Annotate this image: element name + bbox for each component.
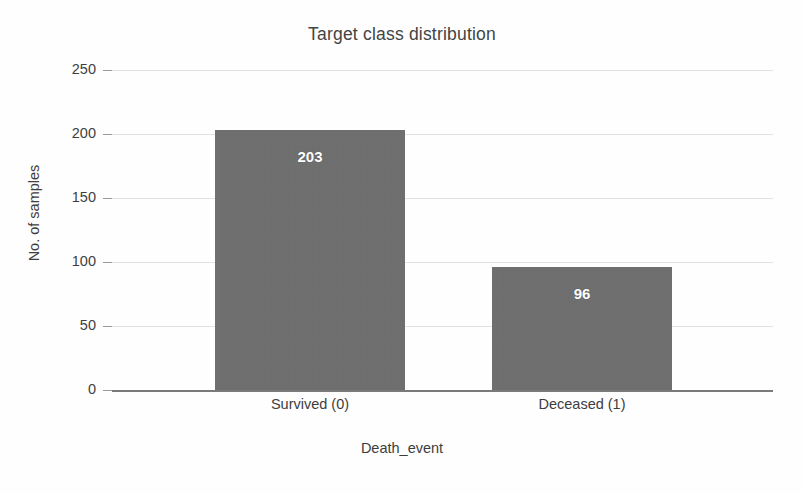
y-tick-label: 50 [34,318,96,333]
gridline [112,262,773,263]
y-tick-mark [103,134,112,135]
gridline [112,198,773,199]
bar-value-label: 203 [215,148,405,165]
gridline [112,134,773,135]
y-tick-mark [103,198,112,199]
bar: 96 [492,267,672,390]
gridline [112,70,773,71]
bar: 203 [215,130,405,390]
y-axis-title: No. of samples [26,133,42,293]
gridline [112,326,773,327]
bar-value-label: 96 [492,285,672,302]
y-tick-mark [103,326,112,327]
y-tick-label: 250 [34,62,96,77]
y-tick-mark [103,390,112,391]
x-axis-title: Death_event [0,440,804,456]
y-tick-label: 0 [34,382,96,397]
y-tick-mark [103,262,112,263]
y-tick-label: 150 [34,190,96,205]
y-tick-mark [103,70,112,71]
axis-baseline [112,390,773,392]
bar-chart-figure: Target class distribution No. of samples… [0,0,804,493]
y-tick-label: 200 [34,126,96,141]
y-tick-label: 100 [34,254,96,269]
chart-title: Target class distribution [0,24,804,45]
x-category-label: Survived (0) [215,396,405,412]
x-category-label: Deceased (1) [492,396,672,412]
plot-area [112,70,773,390]
